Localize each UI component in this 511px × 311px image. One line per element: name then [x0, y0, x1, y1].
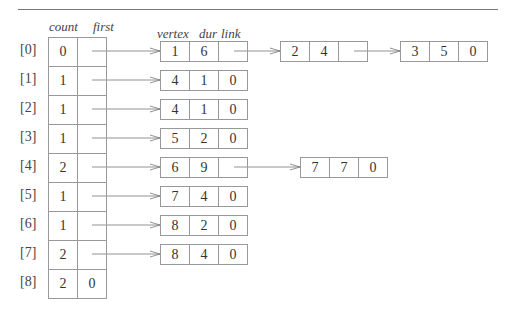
vertex-cell: 6 — [160, 157, 190, 178]
row-index-8: [8] — [20, 274, 50, 290]
link-cell — [218, 157, 248, 178]
row-index-5: [5] — [20, 187, 50, 203]
link-cell: 0 — [218, 128, 248, 149]
link-cell: 0 — [458, 41, 488, 62]
dur-cell: 9 — [189, 157, 219, 178]
row-index-0: [0] — [20, 42, 50, 58]
dur-cell: 4 — [309, 41, 339, 62]
vertex-cell: 2 — [280, 41, 310, 62]
dur-cell: 4 — [189, 244, 219, 265]
first-cell-1 — [77, 66, 107, 96]
first-cell-3 — [77, 124, 107, 154]
link-cell: 0 — [358, 157, 388, 178]
dur-cell: 1 — [189, 99, 219, 120]
count-cell-4: 2 — [48, 153, 78, 183]
vertex-cell: 4 — [160, 99, 190, 120]
count-cell-2: 1 — [48, 95, 78, 125]
first-cell-0 — [77, 37, 107, 67]
dur-cell: 2 — [189, 215, 219, 236]
vertex-cell: 5 — [160, 128, 190, 149]
row-index-6: [6] — [20, 216, 50, 232]
dur-cell: 5 — [429, 41, 459, 62]
link-cell: 0 — [218, 186, 248, 207]
dur-cell: 4 — [189, 186, 219, 207]
dur-cell: 2 — [189, 128, 219, 149]
row-index-1: [1] — [20, 71, 50, 87]
vertex-cell: 8 — [160, 215, 190, 236]
first-cell-4 — [77, 153, 107, 183]
row-index-4: [4] — [20, 158, 50, 174]
link-cell: 0 — [218, 215, 248, 236]
link-cell: 0 — [218, 244, 248, 265]
first-cell-5 — [77, 182, 107, 212]
count-cell-1: 1 — [48, 66, 78, 96]
vertex-cell: 1 — [160, 41, 190, 62]
link-cell — [218, 41, 248, 62]
first-cell-7 — [77, 240, 107, 270]
count-cell-5: 1 — [48, 182, 78, 212]
count-cell-6: 1 — [48, 211, 78, 241]
first-cell-6 — [77, 211, 107, 241]
row-index-7: [7] — [20, 245, 50, 261]
vertex-cell: 3 — [400, 41, 430, 62]
count-cell-3: 1 — [48, 124, 78, 154]
dur-cell: 6 — [189, 41, 219, 62]
link-cell: 0 — [218, 70, 248, 91]
link-cell: 0 — [218, 99, 248, 120]
count-cell-8: 2 — [48, 269, 78, 299]
link-cell — [338, 41, 368, 62]
first-cell-2 — [77, 95, 107, 125]
count-cell-0: 0 — [48, 37, 78, 67]
row-index-3: [3] — [20, 129, 50, 145]
vertex-cell: 7 — [300, 157, 330, 178]
dur-cell: 1 — [189, 70, 219, 91]
vertex-cell: 4 — [160, 70, 190, 91]
dur-cell: 7 — [329, 157, 359, 178]
vertex-cell: 7 — [160, 186, 190, 207]
count-cell-7: 2 — [48, 240, 78, 270]
row-index-2: [2] — [20, 100, 50, 116]
first-cell-8: 0 — [77, 269, 107, 299]
vertex-cell: 8 — [160, 244, 190, 265]
